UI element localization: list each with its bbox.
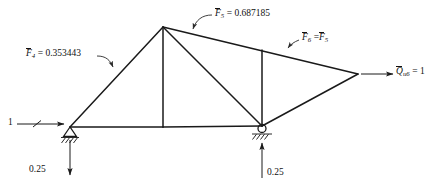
label-load-q: Qu6 = 1 <box>396 67 425 78</box>
leader-f6 <box>288 40 299 48</box>
applied-unit-load-arrow <box>17 121 64 128</box>
label-f4-symbol: F <box>26 49 32 59</box>
label-q-equals: = <box>412 66 417 76</box>
label-reaction-left: 0.25 <box>29 165 46 175</box>
leader-f4 <box>97 56 113 67</box>
label-reaction-right: 0.25 <box>267 168 284 178</box>
label-f5-subscript: 5 <box>221 12 225 19</box>
label-reaction-right-value: 0.25 <box>267 167 284 177</box>
label-f4-value: 0.353443 <box>45 48 81 58</box>
leader-f5 <box>193 15 212 29</box>
label-f6: F6 =F5 <box>302 33 328 44</box>
label-reaction-left-value: 0.25 <box>29 164 46 174</box>
pin-triangle-icon <box>64 127 77 137</box>
label-f4-equals: = <box>38 48 43 58</box>
member-lower-right-chord <box>262 74 358 126</box>
label-applied-unit-load: 1 <box>8 118 13 128</box>
truss-diagram: F4 = 0.353443 F5 = 0.687185 F6 =F5 Qu6 =… <box>0 0 437 189</box>
label-q-value: 1 <box>420 66 425 76</box>
label-f4: F4 = 0.353443 <box>26 49 81 60</box>
member-upper-right-chord <box>163 27 358 74</box>
label-f6-symbol: F <box>302 33 308 43</box>
member-apex-to-roller-diagonal <box>163 27 262 126</box>
label-f6-rhs-symbol: F <box>319 33 325 43</box>
label-f6-rhs-subscript: 5 <box>325 36 329 43</box>
roller-support-hatching <box>253 134 269 139</box>
label-q-symbol: Q <box>396 67 403 77</box>
label-q-subscript: u6 <box>403 70 410 77</box>
label-f5-symbol: F <box>215 9 221 19</box>
member-left-top-chord <box>70 27 163 127</box>
label-f5: F5 = 0.687185 <box>215 9 270 20</box>
label-f6-subscript: 6 <box>308 36 312 43</box>
label-f5-value: 0.687185 <box>234 8 270 18</box>
member-bottom-chord-right <box>163 126 262 127</box>
label-f4-subscript: 4 <box>32 52 36 59</box>
leader-lines <box>97 15 299 67</box>
truss-drawing-canvas <box>0 0 437 189</box>
label-f5-equals: = <box>227 8 232 18</box>
label-applied-unit-load-value: 1 <box>8 117 13 127</box>
